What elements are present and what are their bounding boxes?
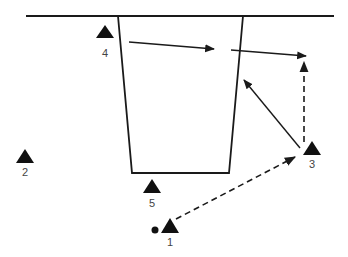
station-label: 5 <box>149 197 155 209</box>
dot-marker-icon <box>152 227 159 234</box>
station-5: 5 <box>143 179 161 209</box>
station-label: 1 <box>167 236 173 248</box>
triangle-marker-icon <box>161 218 179 233</box>
station-label: 2 <box>22 166 28 178</box>
arrow-4-to-trench <box>129 42 214 49</box>
station-label: 3 <box>309 158 315 170</box>
diagram-canvas: 4 2 5 1 3 <box>0 0 348 257</box>
triangle-marker-icon <box>143 179 161 193</box>
triangle-marker-icon <box>16 149 34 163</box>
station-4: 4 <box>96 25 114 59</box>
triangle-marker-icon <box>96 25 114 38</box>
arrow-trench-to-right <box>231 50 306 56</box>
trench-outline <box>118 16 243 173</box>
station-2: 2 <box>16 149 34 178</box>
arrow-3-to-trench-wall <box>244 80 300 148</box>
dashed-arrow-1-to-3 <box>176 157 295 219</box>
station-label: 4 <box>102 47 108 59</box>
station-3: 3 <box>303 141 321 170</box>
triangle-marker-icon <box>303 141 321 155</box>
station-1: 1 <box>152 218 180 248</box>
